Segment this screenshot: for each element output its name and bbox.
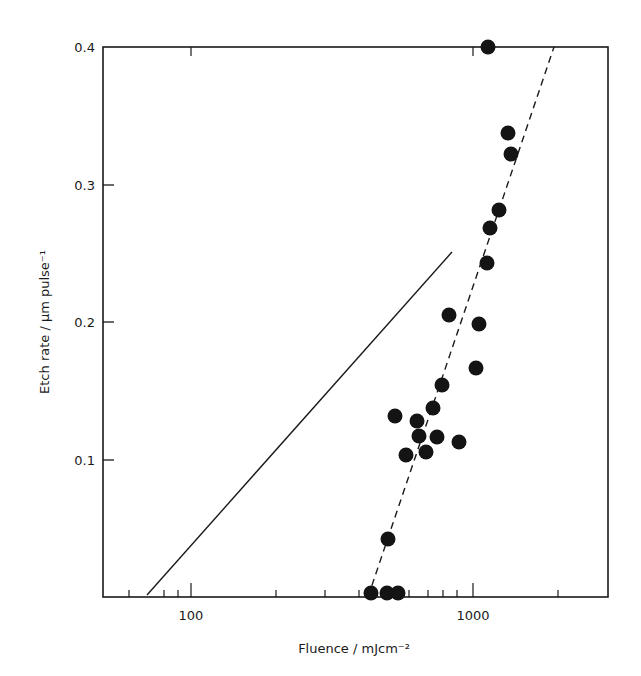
data-point xyxy=(480,256,495,271)
y-tick-label: 0.2 xyxy=(74,315,95,330)
x-axis-title: Fluence / mJcm⁻² xyxy=(298,641,410,656)
data-point xyxy=(410,414,425,429)
dashed-fit-line xyxy=(368,47,554,597)
data-point xyxy=(430,430,445,445)
y-tick-labels: 0.1 0.2 0.3 0.4 xyxy=(74,40,95,468)
data-point xyxy=(481,40,496,55)
data-point xyxy=(483,221,498,236)
data-point xyxy=(492,203,507,218)
y-tick-label: 0.4 xyxy=(74,40,95,55)
data-point xyxy=(381,532,396,547)
x-ticks xyxy=(129,583,558,597)
data-point xyxy=(388,409,403,424)
data-points xyxy=(364,40,519,601)
data-point xyxy=(391,586,406,601)
y-tick-label: 0.1 xyxy=(74,453,95,468)
data-point xyxy=(426,401,441,416)
data-point xyxy=(504,147,519,162)
y-tick-label: 0.3 xyxy=(74,178,95,193)
top-ticks xyxy=(191,47,473,56)
data-point xyxy=(469,361,484,376)
etch-rate-chart: 0.1 0.2 0.3 0.4 100 1000 Fluence / mJcm⁻… xyxy=(0,0,641,676)
data-point xyxy=(501,126,516,141)
y-axis-title: Etch rate / μm pulse⁻¹ xyxy=(37,250,52,394)
y-ticks xyxy=(103,185,114,460)
plot-frame xyxy=(103,47,608,597)
data-point xyxy=(399,448,414,463)
x-tick-label: 100 xyxy=(179,608,204,623)
data-point xyxy=(419,445,434,460)
data-point xyxy=(364,586,379,601)
x-tick-label: 1000 xyxy=(456,608,489,623)
data-point xyxy=(412,429,427,444)
x-tick-labels: 100 1000 xyxy=(179,608,490,623)
data-point xyxy=(472,317,487,332)
data-point xyxy=(442,308,457,323)
data-point xyxy=(435,378,450,393)
data-point xyxy=(452,435,467,450)
solid-reference-line xyxy=(147,252,452,595)
